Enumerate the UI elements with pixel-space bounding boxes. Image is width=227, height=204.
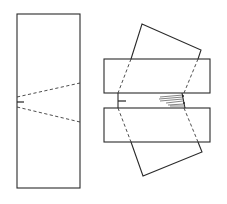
- specimen-body: [17, 14, 80, 188]
- crack-fan: [159, 93, 185, 108]
- fracture-diagram: [0, 0, 227, 204]
- dashed-wedge-lower: [17, 107, 80, 122]
- dashed-wedge-upper: [17, 83, 80, 97]
- loaded-specimen-panel: [104, 24, 210, 176]
- lower-support-block: [104, 108, 210, 142]
- unloaded-specimen-panel: [17, 14, 80, 188]
